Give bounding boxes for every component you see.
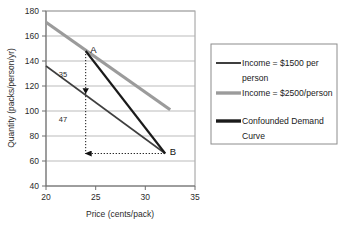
x-tick-label-20: 20 [41,192,51,202]
legend-label-0: person [242,73,268,83]
x-tick-label-35: 35 [190,192,200,202]
y-tick-label-160: 160 [25,31,39,41]
y-tick-label-140: 140 [25,56,39,66]
y-tick-label-40: 40 [30,181,40,191]
legend-label-1: Income = $2500/person [242,88,333,98]
annotation-point-a: A [90,44,97,55]
y-tick-label-100: 100 [25,106,39,116]
x-tick-label-30: 30 [141,192,151,202]
x-axis-title: Price (cents/pack) [86,209,154,219]
y-tick-label-60: 60 [30,156,40,166]
y-tick-label-80: 80 [30,131,40,141]
y-tick-label-180: 180 [25,6,39,16]
annotation-point-b: B [170,146,176,157]
legend-label-0: Income = $1500 per [242,58,319,68]
legend-label-2: Confounded Demand [242,116,324,126]
y-tick-label-120: 120 [25,81,39,91]
annotation-segment-47: 47 [59,115,67,124]
demand-curve-chart: 180160140120100806040 Quantity (packs/pe… [0,0,342,227]
x-tick-label-25: 25 [91,192,101,202]
chart-figure: 180160140120100806040 Quantity (packs/pe… [0,0,342,227]
legend-label-2: Curve [242,131,265,141]
y-axis-title: Quantity (packs/person/yr) [6,48,16,148]
annotation-segment-35: 35 [59,70,67,79]
legend: Income = $1500 perpersonIncome = $2500/p… [211,44,337,144]
